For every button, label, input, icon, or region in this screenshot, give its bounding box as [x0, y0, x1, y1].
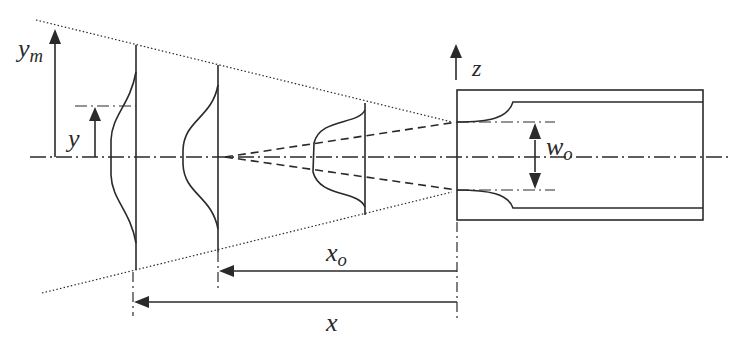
lower-spread-boundary: [42, 192, 452, 293]
ym-arrowhead: [49, 29, 61, 44]
velocity-profile-near: [313, 103, 365, 215]
x-arrowhead: [134, 296, 149, 308]
label-z: z: [472, 56, 481, 80]
wo-arrowhead-up: [529, 123, 541, 139]
label-xo: xo: [326, 240, 347, 269]
jet-spreading-diagram: [0, 0, 747, 344]
xo-arrowhead: [219, 265, 234, 277]
upper-core-boundary: [225, 122, 457, 157]
z-arrowhead: [450, 44, 462, 58]
lower-core-boundary: [225, 157, 457, 190]
nozzle: [457, 90, 703, 220]
label-wo: wo: [546, 134, 573, 163]
label-y: y: [68, 126, 80, 152]
y-arrowhead: [89, 107, 101, 121]
velocity-profile-mid: [183, 65, 218, 252]
label-x: x: [326, 310, 338, 336]
label-ym: ym: [18, 36, 43, 65]
wo-arrowhead-down: [529, 173, 541, 189]
upper-spread-boundary: [36, 20, 452, 122]
